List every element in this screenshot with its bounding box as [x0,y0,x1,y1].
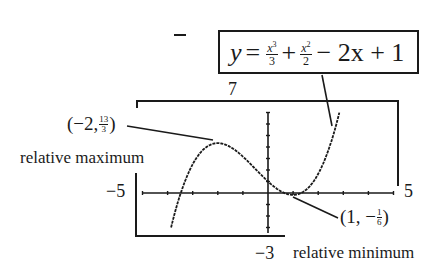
max-open: (−2, [67,113,98,135]
min-frac: 16 [377,208,382,227]
min-point-label: (1, − 16 ) [340,206,389,228]
max-point-label: (−2, 133 ) [67,113,116,135]
relative-minimum-label: relative minimum [293,243,414,263]
max-den: 3 [102,125,107,134]
window-xmax-label: 5 [404,181,413,202]
min-num: 1 [377,208,382,218]
relative-maximum-label: relative maximum [20,148,144,168]
window-ymin-label: −3 [255,243,274,264]
max-num: 13 [99,115,108,125]
min-den: 6 [377,218,382,227]
min-callout-line [293,197,338,218]
window-ymax-label: 7 [228,79,237,100]
function-curve [171,113,339,228]
max-close: ) [109,113,115,135]
min-open: (1, − [340,206,376,228]
graph-canvas [0,0,445,272]
min-close: ) [383,206,389,228]
max-callout-line [127,126,213,140]
max-frac: 133 [99,115,108,134]
bottom-bracket [136,173,285,236]
window-xmin-label: −5 [106,181,125,202]
